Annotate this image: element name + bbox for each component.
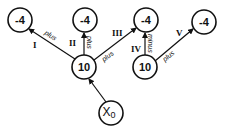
edge-root: [89, 79, 106, 102]
svg-text:-4: -4: [80, 14, 91, 26]
svg-text:10: 10: [78, 61, 90, 73]
node-leaf-I: -4: [8, 8, 32, 32]
root-subscript: 0: [111, 110, 116, 120]
root-label: X: [102, 105, 110, 119]
edge-label-IV: IV: [131, 44, 142, 54]
edge-V: [155, 29, 193, 61]
edge-op-IV: minus: [147, 34, 154, 53]
node-right-10: 10: [133, 55, 157, 79]
node-leaf-V: -4: [192, 10, 216, 34]
svg-text:-4: -4: [199, 16, 210, 28]
edge-op-III: plus: [100, 49, 116, 64]
node-leaf-III-IV: -4: [134, 8, 158, 32]
svg-text:-4: -4: [141, 14, 152, 26]
edge-label-II: II: [69, 38, 77, 48]
svg-text:10: 10: [139, 61, 151, 73]
node-root-x0: X0: [99, 101, 123, 125]
svg-text:-4: -4: [15, 14, 26, 26]
tree-diagram: I II III IV V plus plus plus minus plus …: [0, 0, 229, 129]
edge-op-II: plus: [85, 35, 93, 49]
edge-op-I: plus: [42, 28, 58, 43]
node-left-10: 10: [72, 55, 96, 79]
edge-label-III: III: [112, 28, 123, 38]
node-leaf-II: -4: [73, 8, 97, 32]
edge-label-I: I: [33, 40, 37, 50]
edge-label-V: V: [176, 28, 183, 38]
edge-op-V: plus: [160, 49, 176, 64]
